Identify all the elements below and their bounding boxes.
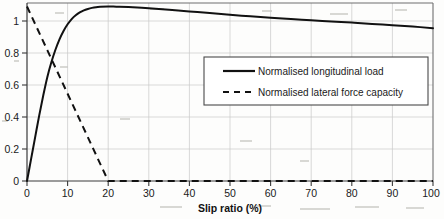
x-tick-label: 80 <box>346 187 358 199</box>
y-tick-label: 0 <box>13 175 19 187</box>
y-tick-label: 0.2 <box>4 143 19 155</box>
x-tick-label: 60 <box>265 187 277 199</box>
x-tick-label: 70 <box>305 187 317 199</box>
y-tick-label: 0.4 <box>4 111 19 123</box>
y-tick-label: 0.8 <box>4 47 19 59</box>
chart-legend: Normalised longitudinal load Normalised … <box>204 57 428 105</box>
y-tick-label: 1 <box>13 15 19 27</box>
x-tick-label: 50 <box>224 187 236 199</box>
x-tick-label: 10 <box>62 187 74 199</box>
x-tick-label: 40 <box>184 187 196 199</box>
x-tick-label: 100 <box>422 187 440 199</box>
x-tick-label: 0 <box>24 187 30 199</box>
x-tick-label: 90 <box>387 187 399 199</box>
legend-label: Normalised longitudinal load <box>258 66 384 77</box>
chart-figure: 1 0.8 0.6 0.4 0.2 0 0 10 20 30 40 50 60 … <box>0 0 444 219</box>
x-tick-label: 20 <box>102 187 114 199</box>
line-chart: 1 0.8 0.6 0.4 0.2 0 0 10 20 30 40 50 60 … <box>0 0 444 219</box>
legend-label: Normalised lateral force capacity <box>258 87 403 98</box>
x-axis-title: Slip ratio (%) <box>198 202 262 214</box>
x-tick-label: 30 <box>143 187 155 199</box>
y-tick-label: 0.6 <box>4 79 19 91</box>
